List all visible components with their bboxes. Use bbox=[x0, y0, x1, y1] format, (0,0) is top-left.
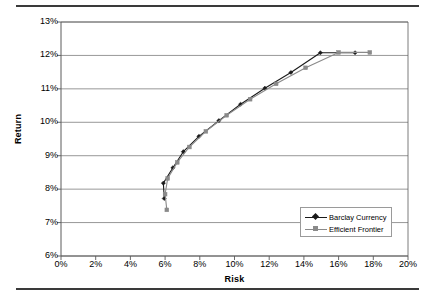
legend-label: Barclay Currency bbox=[327, 213, 387, 222]
legend-item-barclay-currency: Barclay Currency bbox=[305, 211, 391, 223]
legend-item-efficient-frontier: Efficient Frontier bbox=[305, 223, 391, 235]
chart-legend: Barclay Currency Efficient Frontier bbox=[300, 207, 392, 237]
legend-marker-square-icon bbox=[305, 224, 327, 234]
chart-figure: 6%7%8%9%10%11%12%13% 0%2%4%6%8%10%12%14%… bbox=[0, 0, 435, 301]
data-series bbox=[161, 51, 371, 212]
legend-label: Efficient Frontier bbox=[327, 225, 383, 234]
y-axis-title: Return bbox=[13, 99, 23, 159]
efficient-frontier-chart bbox=[0, 0, 435, 301]
x-axis-title: Risk bbox=[61, 274, 408, 284]
legend-marker-diamond-icon bbox=[305, 212, 327, 222]
